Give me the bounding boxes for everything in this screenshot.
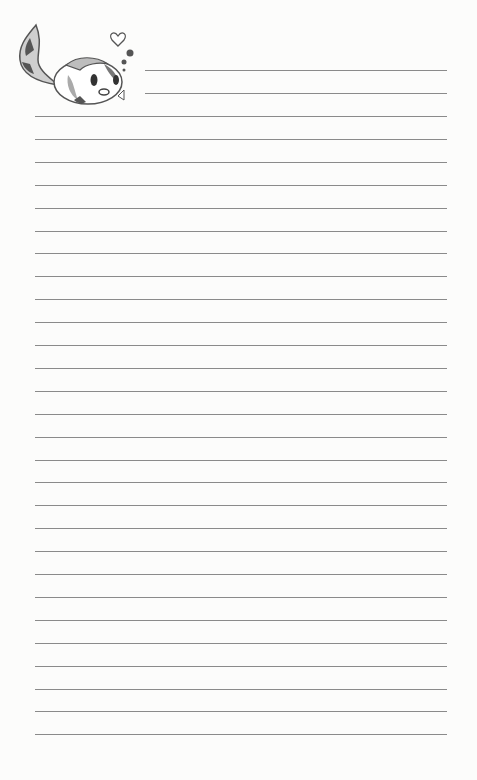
short-ruled-line [145,93,447,94]
ruled-line [35,391,447,392]
ruled-line [35,139,447,140]
ruled-line [35,276,447,277]
ruled-line [35,162,447,163]
ruled-line [35,574,447,575]
ruled-line [35,620,447,621]
short-ruled-line [145,70,447,71]
ruled-line [35,482,447,483]
ruled-line [35,368,447,369]
ruled-line [35,551,447,552]
ruled-line [35,299,447,300]
ruled-line [35,231,447,232]
ruled-line [35,460,447,461]
ruled-line [35,528,447,529]
notepaper [0,0,477,780]
ruled-line [35,643,447,644]
fish-icon [8,20,138,105]
ruled-line [35,734,447,735]
ruled-line [35,322,447,323]
ruled-line [35,253,447,254]
ruled-line [35,666,447,667]
ruled-line [35,345,447,346]
ruled-line [35,711,447,712]
ruled-line [35,505,447,506]
ruled-line [35,208,447,209]
ruled-line [35,689,447,690]
ruled-line [35,185,447,186]
ruled-line [35,116,447,117]
ruled-line [35,437,447,438]
ruled-line [35,414,447,415]
ruled-line [35,597,447,598]
